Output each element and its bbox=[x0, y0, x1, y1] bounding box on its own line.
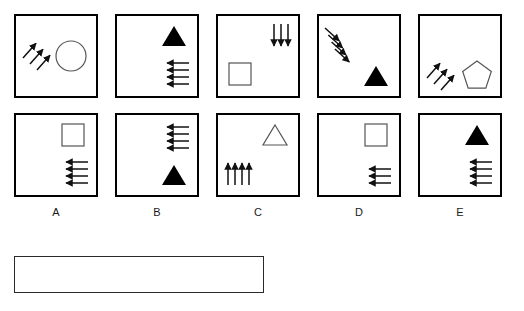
panel-a-top[interactable] bbox=[14, 14, 98, 98]
column-label-d: D bbox=[317, 205, 401, 219]
shape-pentagon bbox=[463, 61, 492, 88]
arrow-group-up-right bbox=[23, 43, 50, 70]
panel-a-bottom[interactable] bbox=[14, 113, 98, 197]
arrow-group-left bbox=[369, 169, 391, 183]
panel-b-top[interactable] bbox=[115, 14, 199, 98]
arrow-group-up-right bbox=[427, 63, 454, 90]
shape-triangle bbox=[364, 66, 388, 86]
arrow-group-left bbox=[167, 127, 189, 148]
arrow-group-down-right bbox=[325, 28, 349, 62]
shape-triangle bbox=[263, 125, 287, 145]
shape-circle bbox=[56, 41, 86, 71]
shape-square bbox=[62, 124, 84, 146]
puzzle-stage: ABCDE bbox=[0, 0, 524, 311]
panel-e-bottom[interactable] bbox=[418, 113, 502, 197]
arrow-group-left bbox=[167, 63, 189, 84]
column-label-a: A bbox=[14, 205, 98, 219]
arrow-group-down bbox=[274, 24, 288, 46]
shape-triangle bbox=[465, 125, 489, 145]
arrow-group-left bbox=[470, 162, 492, 183]
column-label-c: C bbox=[216, 205, 300, 219]
panel-d-bottom[interactable] bbox=[317, 113, 401, 197]
panel-c-bottom[interactable] bbox=[216, 113, 300, 197]
panel-e-top[interactable] bbox=[418, 14, 502, 98]
shape-square bbox=[229, 63, 251, 85]
panel-b-bottom[interactable] bbox=[115, 113, 199, 197]
arrow-group-left bbox=[66, 162, 88, 183]
panel-c-top[interactable] bbox=[216, 14, 300, 98]
column-label-b: B bbox=[115, 205, 199, 219]
panel-d-top[interactable] bbox=[317, 14, 401, 98]
arrow-group-up bbox=[228, 163, 249, 185]
shape-triangle bbox=[162, 165, 186, 185]
answer-box[interactable] bbox=[14, 256, 264, 293]
column-label-e: E bbox=[418, 205, 502, 219]
shape-triangle bbox=[162, 26, 186, 46]
shape-square bbox=[365, 124, 387, 146]
